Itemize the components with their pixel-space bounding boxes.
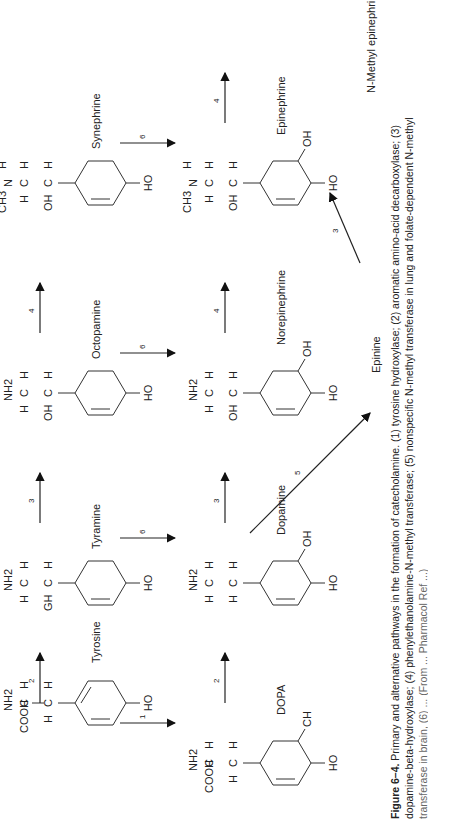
atom-n: N — [2, 179, 14, 187]
atom-c: C — [203, 579, 215, 587]
enzyme-4: 4 — [212, 98, 221, 103]
atom-h: H — [203, 561, 215, 569]
label-octopamine: Octopamine — [90, 300, 102, 359]
atom-ch3: CH3 — [181, 191, 193, 213]
atom-c: C — [42, 179, 54, 187]
label-dopamine: Dopamine — [275, 485, 287, 535]
atom-ho: HO — [327, 574, 339, 591]
atom-c: C — [203, 179, 215, 187]
label-n-methyl-epinephrine: N-Methyl epinephrine — [365, 0, 377, 93]
figure-caption: Figure 6–4. Primary and alternative path… — [388, 4, 428, 819]
atom-h: H — [227, 775, 239, 783]
molecule-epinephrine: HO OH C OH H C H H N CH3 H Epinephrine — [181, 76, 339, 213]
atom-ch3: CH3 — [0, 191, 8, 213]
atom-h: H — [42, 161, 54, 169]
atom-c: C — [42, 579, 54, 587]
molecule-tyramine: HO C GH H C H H NH2 Tyramine — [2, 504, 154, 611]
label-synephrine: Synephrine — [90, 93, 102, 149]
atom-c: C — [18, 179, 30, 187]
atom-h: H — [42, 561, 54, 569]
molecule-tyrosine: HO C H H C COOH H NH2 Tyrosine — [2, 621, 154, 733]
molecule-norepinephrine: HO OH C OH H C H H NH2 Norepinephrine — [187, 270, 339, 421]
atom-h: H — [203, 161, 215, 169]
molecule-epinine: Epinine — [370, 336, 382, 373]
enzyme-6: 6 — [138, 344, 147, 349]
atom-ho: HO — [327, 384, 339, 401]
atom-c: C — [203, 389, 215, 397]
label-tyrosine: Tyrosine — [90, 621, 102, 663]
atom-oh: OH — [227, 404, 239, 421]
atom-h: H — [18, 161, 30, 169]
atom-ho: HO — [142, 694, 154, 711]
atom-h: H — [203, 371, 215, 379]
atom-ho: HO — [142, 384, 154, 401]
atom-oh: OH — [42, 194, 54, 211]
atom-oh: OH — [301, 530, 313, 547]
atom-c: C — [18, 579, 30, 587]
atom-h: H — [203, 595, 215, 603]
molecule-dopamine: HO OH C H H C H H NH2 Dopamine — [187, 485, 339, 605]
label-epinephrine: Epinephrine — [275, 76, 287, 135]
atom-h: H — [227, 371, 239, 379]
atom-h: H — [227, 595, 239, 603]
atom-ho: HO — [142, 174, 154, 191]
atom-c: C — [227, 179, 239, 187]
enzyme-2: 2 — [212, 678, 221, 683]
arrow-5-dopamine-epinine — [250, 413, 370, 533]
caption-line-3: transferase in brain, (6) ... (From ... … — [416, 4, 428, 819]
atom-h: H — [18, 195, 30, 203]
atom-nh2: NH2 — [2, 569, 14, 591]
atom-c: C — [42, 389, 54, 397]
atom-ho: HO — [142, 574, 154, 591]
atom-h: H — [0, 161, 8, 169]
atom-h: H — [42, 715, 54, 723]
enzyme-3: 3 — [212, 498, 221, 503]
label-dopa: DOPA — [275, 684, 287, 715]
atom-h: H — [227, 161, 239, 169]
enzyme-5: 5 — [293, 470, 302, 475]
atom-nh2: NH2 — [187, 379, 199, 401]
enzyme-3: 3 — [27, 498, 36, 503]
atom-nh2: NH2 — [2, 689, 14, 711]
atom-h: H — [18, 595, 30, 603]
atom-h: H — [227, 741, 239, 749]
atom-h: H — [42, 681, 54, 689]
atom-ch: CH — [301, 711, 313, 727]
atom-n: N — [187, 179, 199, 187]
atom-h: H — [42, 371, 54, 379]
atom-oh: OH — [227, 194, 239, 211]
atom-nh2: NH2 — [2, 379, 14, 401]
enzyme-2: 2 — [27, 678, 36, 683]
label-epinine: Epinine — [370, 336, 382, 373]
atom-h: H — [18, 371, 30, 379]
atom-c: C — [18, 389, 30, 397]
atom-h: H — [18, 561, 30, 569]
enzyme-6: 6 — [138, 529, 147, 534]
atom-h: H — [18, 405, 30, 413]
pathway-diagram: HO C H H C COOH H NH2 Tyrosine 2 1 HO C … — [0, 0, 390, 823]
atom-h: H — [203, 405, 215, 413]
atom-gh: GH — [42, 594, 54, 611]
atom-c: C — [227, 579, 239, 587]
molecule-synephrine: HO C OH H C H H N CH3 H Synephrine — [0, 93, 154, 213]
atom-c: C — [227, 389, 239, 397]
atom-nh2: NH2 — [187, 749, 199, 771]
atom-cooh: COOH — [203, 760, 215, 793]
caption-line-2: dopamine-beta-hydroxylase; (4) phenyleth… — [402, 4, 416, 819]
molecule-dopa: HO CH C H H C COOH H NH2 DOPA — [187, 684, 339, 793]
caption-line-1: Primary and alternative pathways in the … — [389, 125, 401, 763]
atom-c: C — [227, 759, 239, 767]
molecule-n-methyl-epinephrine: N-Methyl epinephrine — [365, 0, 377, 93]
atom-h: H — [203, 195, 215, 203]
enzyme-3: 3 — [331, 228, 340, 233]
label-tyramine: Tyramine — [90, 504, 102, 549]
atom-h: H — [203, 741, 215, 749]
enzyme-4: 4 — [27, 308, 36, 313]
atom-ho: HO — [327, 174, 339, 191]
atom-h: H — [181, 161, 193, 169]
enzyme-4: 4 — [212, 308, 221, 313]
atom-oh: OH — [42, 404, 54, 421]
molecule-octopamine: HO C OH H C H H NH2 Octopamine — [2, 300, 154, 421]
atom-oh: OH — [301, 130, 313, 147]
caption-label: Figure 6–4. — [389, 764, 401, 819]
